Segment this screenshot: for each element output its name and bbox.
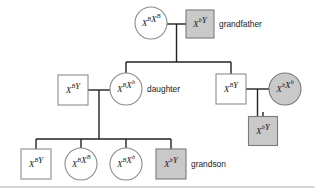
individual-i9-female-unaffected[interactable]: XBXB bbox=[65, 148, 97, 180]
pedigree-canvas: XBXBXbYgrandfatherXBYXBXbdaughterXBYXbXb… bbox=[0, 0, 315, 190]
role-label-grandfather: grandfather bbox=[219, 19, 262, 29]
male-square-symbol bbox=[186, 10, 214, 38]
individual-i11-male-affected[interactable]: XbYgrandson bbox=[156, 149, 226, 179]
individual-i5-male-unaffected[interactable]: XBY bbox=[216, 74, 246, 104]
individual-i2-male-affected[interactable]: XbYgrandfather bbox=[186, 10, 262, 38]
male-square-symbol bbox=[156, 149, 186, 179]
individual-i1-female-unaffected[interactable]: XBXB bbox=[135, 7, 167, 39]
individual-i3-male-unaffected[interactable]: XBY bbox=[58, 75, 88, 105]
male-square-symbol bbox=[249, 117, 278, 146]
male-square-symbol bbox=[21, 149, 51, 179]
role-label-daughter: daughter bbox=[147, 84, 180, 94]
individual-node-layer: XBXBXbYgrandfatherXBYXBXbdaughterXBYXbXb… bbox=[21, 7, 301, 180]
individual-i4-female-unaffected[interactable]: XBXbdaughter bbox=[110, 73, 180, 105]
male-square-symbol bbox=[58, 75, 88, 105]
individual-i10-female-unaffected[interactable]: XBXb bbox=[110, 148, 142, 180]
individual-i8-male-unaffected[interactable]: XBY bbox=[21, 149, 51, 179]
role-label-grandson: grandson bbox=[191, 159, 226, 169]
male-square-symbol bbox=[216, 74, 246, 104]
pedigree-figure: XBXBXbYgrandfatherXBYXBXbdaughterXBYXbXb… bbox=[0, 0, 315, 190]
individual-i7-male-affected[interactable]: XbY bbox=[249, 117, 278, 146]
individual-i6-female-affected[interactable]: XbXb bbox=[269, 73, 301, 105]
